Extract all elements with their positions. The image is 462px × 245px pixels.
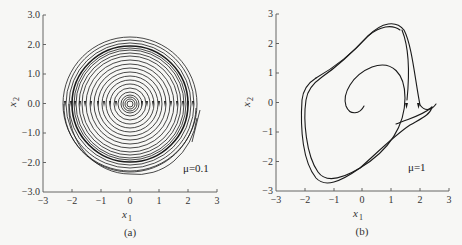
panel-a-mu-annotation: μ=0.1 [183,162,209,174]
panel-b-arrowheads [405,103,420,109]
panel-a-arrowheads [64,101,194,107]
panel-b-xtick: 2 [418,194,423,205]
panel-b-xtick: −3 [271,194,282,205]
panel-a-trajectories [63,37,200,175]
panel-b-ytick: 3 [268,8,273,19]
svg-text:x: x [352,207,358,219]
panel-a-caption: (a) [124,226,137,239]
panel-a-ytick: −2.0 [22,157,40,168]
panel-b-mu-annotation: μ=1 [408,161,426,173]
panel-b-ytick: 0 [268,97,273,108]
panel-b-xtick: 3 [447,194,452,205]
panel-a-ytick: 0.0 [28,98,41,109]
panel-b-ytick: 2 [268,38,273,49]
panel-a-xtick: −1 [96,195,107,206]
panel-a-xtick: 1 [157,195,162,206]
panel-b-xtick: −2 [300,194,311,205]
panel-b-ytick: 1 [268,67,273,78]
panel-b-trajectories [301,24,436,183]
panel-a-xtick: −3 [38,195,49,206]
panel-a-xlabel: x 1 [121,208,132,223]
panel-a-ytick: 1.0 [28,68,41,79]
panel-a-xtick: 0 [128,195,133,206]
panel-a-ylabel: x 2 [6,97,21,108]
svg-text:x: x [6,102,18,108]
svg-text:2: 2 [12,97,21,101]
panel-b-xtick: −1 [329,194,340,205]
panel-b-xtick: 1 [389,194,394,205]
panel-b-ylabel: x 2 [240,97,255,108]
svg-text:x: x [240,102,252,108]
panel-a-xtick: 3 [215,195,220,206]
panel-b-caption: (b) [356,225,369,238]
panel-b-ytick: −2 [262,156,273,167]
panel-a: −3.0 −2.0 −1.0 0.0 1.0 2.0 3.0 −3 −2 −1 … [6,9,220,239]
panel-b-xlabel: x 1 [352,207,363,222]
svg-text:x: x [121,208,127,220]
svg-text:2: 2 [246,97,255,101]
panel-a-xtick: −2 [67,195,78,206]
svg-text:1: 1 [359,213,363,222]
panel-a-ytick: −1.0 [22,127,40,138]
svg-text:1: 1 [128,214,132,223]
panel-b: −3 −2 −1 0 1 2 3 −3 −2 −1 0 1 2 3 x 1 x … [240,8,452,238]
panel-a-ytick: 3.0 [28,9,41,20]
panel-b-xtick: 0 [360,194,365,205]
panel-a-ytick: 2.0 [28,39,41,50]
figure: −3.0 −2.0 −1.0 0.0 1.0 2.0 3.0 −3 −2 −1 … [0,0,462,245]
panel-a-xtick: 2 [186,195,191,206]
panel-b-ytick: −1 [262,126,273,137]
